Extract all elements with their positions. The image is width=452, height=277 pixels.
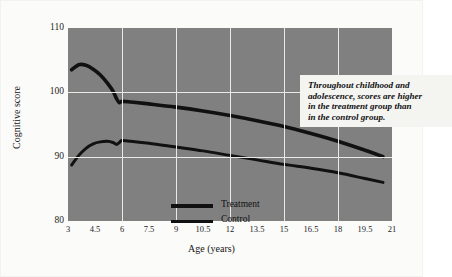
x-tick-label: 21 <box>388 224 397 234</box>
vertical-gridline <box>284 28 285 221</box>
x-tick-label: 12 <box>226 224 235 234</box>
x-tick-label: 15 <box>280 224 289 234</box>
x-tick-label: 10.5 <box>196 224 211 234</box>
legend-line-swatch <box>171 204 213 208</box>
x-tick-label: 4.5 <box>90 224 101 234</box>
annotation-line: in the control group. <box>308 112 445 123</box>
annotation-line: adolescence, scores are higher <box>308 91 445 102</box>
x-tick-label: 7.5 <box>144 224 155 234</box>
x-tick-label: 3 <box>66 224 70 234</box>
vertical-gridline <box>176 28 177 221</box>
y-axis-title: Cognitive score <box>11 58 22 178</box>
legend-label: Control <box>221 214 250 224</box>
x-tick-label: 6 <box>120 224 124 234</box>
legend-line-swatch <box>171 220 213 223</box>
horizontal-gridline <box>68 157 392 158</box>
x-tick-label: 18 <box>334 224 343 234</box>
annotation-line: in the treatment group than <box>308 101 445 112</box>
legend-item: Treatment <box>171 199 291 214</box>
x-tick-label: 19.5 <box>358 224 373 234</box>
x-tick-label: 9 <box>174 224 178 234</box>
legend-label: Treatment <box>221 199 260 209</box>
annotation-callout: Throughout childhood andadolescence, sco… <box>300 75 452 127</box>
vertical-gridline <box>122 28 123 221</box>
annotation-line: Throughout childhood and <box>308 80 445 91</box>
x-axis-ticks: 34.567.5910.51213.51516.51819.521 <box>0 224 423 240</box>
x-tick-label: 16.5 <box>304 224 319 234</box>
x-tick-label: 13.5 <box>250 224 265 234</box>
y-tick-label: 110 <box>0 22 64 32</box>
x-axis-title: Age (years) <box>0 243 423 254</box>
vertical-gridline <box>230 28 231 221</box>
plot-area: TreatmentControl Throughout childhood an… <box>68 28 392 221</box>
line-series-control <box>72 141 383 183</box>
